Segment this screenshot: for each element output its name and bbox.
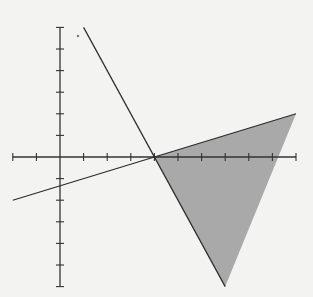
stray-dot: [77, 35, 79, 37]
feasible-region-triangle: [154, 114, 296, 287]
coordinate-plane: [0, 0, 313, 297]
dot-mark: [77, 35, 79, 37]
shaded-region: [154, 114, 296, 287]
